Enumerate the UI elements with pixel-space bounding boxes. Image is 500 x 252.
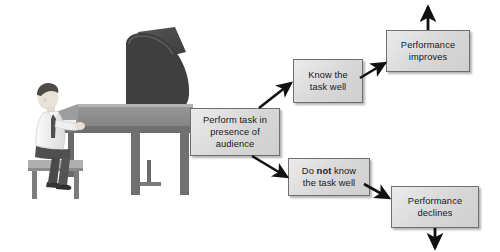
arrow-perform-to-notknow — [252, 156, 287, 177]
flow-arrows — [0, 0, 500, 252]
arrow-know-to-improves — [360, 63, 385, 78]
arrow-perform-to-know — [259, 83, 291, 108]
arrow-notknow-to-declines — [364, 184, 389, 198]
diagram-canvas: Perform task in presence of audience Kno… — [0, 0, 500, 252]
